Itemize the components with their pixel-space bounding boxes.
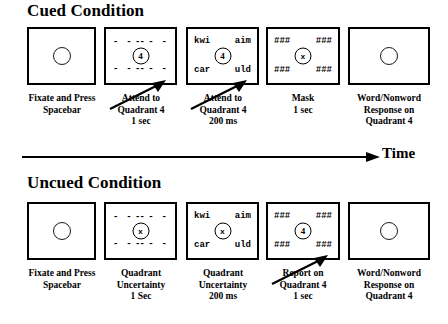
uncued-panel-response bbox=[348, 202, 430, 260]
uncued-caption-response: Word/Nonword Response on Quadrant 4 bbox=[345, 268, 433, 303]
fixation-circle-icon bbox=[53, 222, 71, 240]
uncued-panel-fixation bbox=[27, 202, 96, 260]
cued-panel-stimulus: kwi aim car uld 4 bbox=[186, 27, 259, 85]
word-top-left: kwi bbox=[194, 212, 210, 221]
center-cue-marker: x bbox=[295, 48, 312, 65]
dash-top-right: - - - bbox=[135, 213, 168, 222]
word-top-right: aim bbox=[235, 37, 251, 46]
cued-caption-fixation: Fixate and Press Spacebar bbox=[12, 93, 112, 116]
uncued-condition-title: Uncued Condition bbox=[27, 173, 161, 193]
mask-top-right: ### bbox=[316, 37, 332, 46]
cued-panel-mask: ### ### ### ### x bbox=[266, 27, 340, 85]
word-top-left: kwi bbox=[194, 37, 210, 46]
uncued-caption-mask: Report on Quadrant 4 1 sec bbox=[267, 268, 339, 303]
dash-top-right: - - - bbox=[135, 38, 168, 47]
word-bottom-left: car bbox=[194, 241, 210, 250]
uncued-panel-mask: ### ### ### ### 4 bbox=[266, 202, 340, 260]
uncued-caption-cue: Quadrant Uncertainty 1 Sec bbox=[105, 268, 177, 303]
uncued-panel-cue: - - - - - - - - - - - - x bbox=[104, 202, 177, 260]
mask-top-left: ### bbox=[274, 37, 290, 46]
cued-caption-mask: Mask 1 sec bbox=[267, 93, 339, 116]
word-bottom-right: uld bbox=[235, 241, 251, 250]
cued-condition-title: Cued Condition bbox=[27, 1, 144, 21]
mask-top-right: ### bbox=[316, 212, 332, 221]
center-cue-marker: 4 bbox=[132, 48, 149, 65]
cued-caption-cue: Attend to Quadrant 4 1 sec bbox=[105, 93, 177, 128]
center-cue-marker: x bbox=[132, 223, 149, 240]
cued-panel-fixation bbox=[27, 27, 96, 85]
dash-bottom-right: - - - bbox=[135, 65, 168, 74]
center-cue-marker: x bbox=[214, 223, 231, 240]
cued-caption-stimulus: Attend to Quadrant 4 200 ms bbox=[187, 93, 259, 128]
uncued-panel-stimulus: kwi aim car uld x bbox=[186, 202, 259, 260]
word-top-right: aim bbox=[235, 212, 251, 221]
word-bottom-left: car bbox=[194, 66, 210, 75]
mask-bottom-right: ### bbox=[316, 241, 332, 250]
cued-panel-response bbox=[348, 27, 430, 85]
fixation-circle-icon bbox=[380, 47, 398, 65]
fixation-circle-icon bbox=[380, 222, 398, 240]
word-bottom-right: uld bbox=[235, 66, 251, 75]
center-cue-marker: 4 bbox=[214, 48, 231, 65]
cued-panel-cue: - - - - - - - - - - - - 4 bbox=[104, 27, 177, 85]
fixation-circle-icon bbox=[53, 47, 71, 65]
uncued-caption-stimulus: Quadrant Uncertainty 200 ms bbox=[187, 268, 259, 303]
mask-bottom-right: ### bbox=[316, 66, 332, 75]
time-axis-label: Time bbox=[382, 145, 415, 162]
center-cue-marker: 4 bbox=[295, 223, 312, 240]
mask-bottom-left: ### bbox=[274, 241, 290, 250]
cued-caption-response: Word/Nonword Response on Quadrant 4 bbox=[345, 93, 433, 128]
dash-bottom-right: - - - bbox=[135, 240, 168, 249]
uncued-caption-fixation: Fixate and Press Spacebar bbox=[12, 268, 112, 291]
mask-top-left: ### bbox=[274, 212, 290, 221]
mask-bottom-left: ### bbox=[274, 66, 290, 75]
